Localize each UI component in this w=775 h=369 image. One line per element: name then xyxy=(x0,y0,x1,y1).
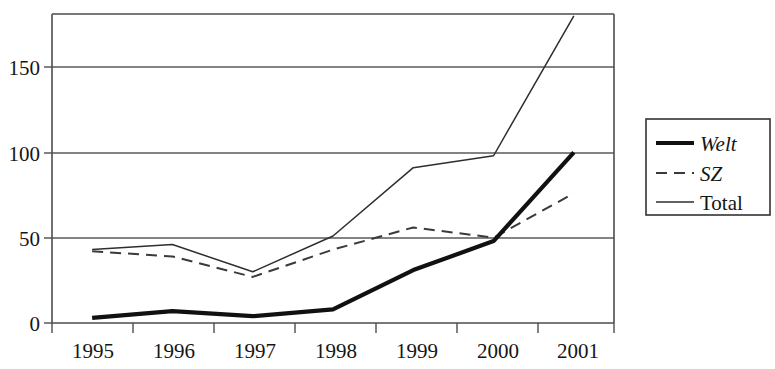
x-axis-labels: 1995 1996 1997 1998 1999 2000 2001 xyxy=(72,339,599,363)
xtick-label-1999: 1999 xyxy=(396,339,438,363)
xtick-label-2001: 2001 xyxy=(557,339,599,363)
chart-legend: Welt SZ Total xyxy=(646,119,770,215)
xtick-label-2000: 2000 xyxy=(477,339,519,363)
legend-label-welt: Welt xyxy=(700,132,738,156)
y-axis-ticks xyxy=(44,67,52,323)
xtick-label-1996: 1996 xyxy=(153,339,195,363)
ytick-label-50: 50 xyxy=(19,227,40,251)
y-axis-labels: 150 100 50 0 xyxy=(9,56,41,336)
plot-area-background xyxy=(52,14,614,323)
legend-label-sz: SZ xyxy=(700,162,723,186)
ytick-label-0: 0 xyxy=(30,312,41,336)
xtick-label-1997: 1997 xyxy=(234,339,276,363)
x-axis-ticks xyxy=(52,323,614,333)
xtick-label-1995: 1995 xyxy=(72,339,114,363)
legend-label-total: Total xyxy=(700,191,743,215)
line-chart: 150 100 50 0 1995 1996 1997 1998 1999 20… xyxy=(0,0,775,369)
ytick-label-100: 100 xyxy=(9,142,41,166)
chart-figure: 150 100 50 0 1995 1996 1997 1998 1999 20… xyxy=(0,0,775,369)
xtick-label-1998: 1998 xyxy=(315,339,357,363)
ytick-label-150: 150 xyxy=(9,56,41,80)
